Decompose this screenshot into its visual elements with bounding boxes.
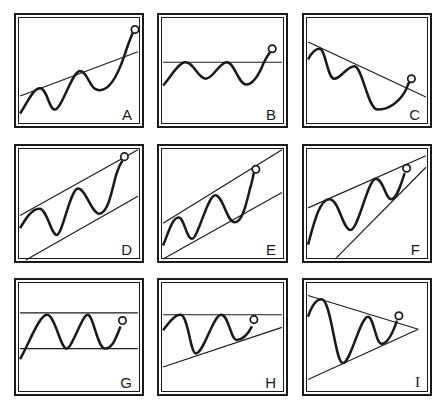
panel-label: C — [409, 107, 420, 122]
price-curve — [308, 49, 409, 110]
panel-d: D — [14, 144, 144, 263]
trend-line — [308, 42, 426, 97]
endpoint-circle-icon — [408, 75, 415, 82]
panel-label: B — [266, 107, 276, 122]
price-curve — [20, 32, 133, 113]
endpoint-circle-icon — [403, 165, 410, 172]
triangle-lower-line — [308, 329, 418, 379]
panel-label: H — [265, 375, 276, 390]
panel-label: F — [411, 242, 420, 257]
price-curve — [163, 173, 254, 245]
panel-label: E — [266, 242, 276, 257]
endpoint-circle-icon — [119, 317, 126, 324]
endpoint-circle-icon — [131, 26, 138, 33]
endpoint-circle-icon — [121, 153, 128, 160]
endpoint-circle-icon — [252, 166, 259, 173]
channel-upper-line — [163, 150, 282, 223]
endpoint-circle-icon — [250, 316, 257, 323]
price-curve — [20, 315, 120, 359]
panel-c: C — [302, 13, 432, 128]
panel-g: G — [14, 278, 144, 396]
panel-h: H — [157, 278, 288, 396]
panel-label: G — [120, 375, 132, 390]
panel-f: F — [302, 144, 432, 263]
panel-e: E — [157, 144, 288, 263]
panel-a: A — [14, 13, 144, 128]
pattern-drawing — [304, 280, 430, 394]
price-curve — [20, 160, 122, 234]
panel-label: I — [415, 375, 420, 390]
price-curve — [163, 52, 270, 86]
price-curve — [308, 173, 405, 245]
panel-i: I — [302, 278, 432, 396]
ascending-support-line — [163, 327, 282, 367]
panel-label: A — [122, 107, 132, 122]
endpoint-circle-icon — [269, 45, 276, 52]
price-curve — [163, 315, 252, 354]
panel-label: D — [121, 242, 132, 257]
endpoint-circle-icon — [395, 312, 402, 319]
panel-b: B — [157, 13, 288, 128]
